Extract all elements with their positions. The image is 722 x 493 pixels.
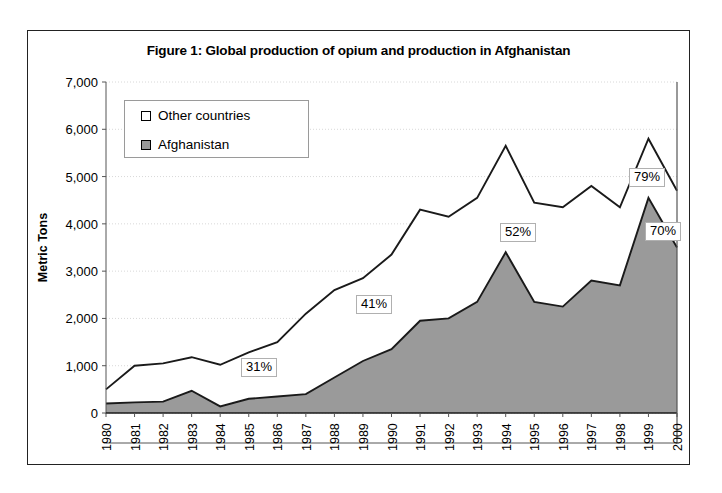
x-tick-label: 1999 (642, 423, 656, 451)
x-tick-label: 1998 (614, 423, 628, 451)
x-tick-label: 1989 (357, 423, 371, 451)
annotation-70-percent: 70% (645, 222, 681, 241)
x-tick-label: 1997 (585, 423, 599, 451)
y-axis-title: Metric Tons (36, 213, 50, 282)
x-tick-label: 1988 (328, 423, 342, 451)
y-axis-title: Metric Tons (36, 213, 50, 282)
x-tick-labels: 1980198119821983198419851986198719881989… (100, 423, 685, 451)
x-tick-label: 1987 (300, 423, 314, 451)
x-tick-label: 1994 (500, 423, 514, 451)
y-tick-label: 1,000 (65, 359, 98, 374)
y-tick-label: 5,000 (65, 170, 98, 185)
chart-svg: 01,0002,0003,0004,0005,0006,0007,000 198… (0, 0, 722, 493)
x-tick-label: 1990 (386, 423, 400, 451)
annotation-41-percent: 41% (356, 295, 392, 314)
annotation-52-percent: 52% (500, 223, 536, 242)
y-tick-labels: 01,0002,0003,0004,0005,0006,0007,000 (65, 75, 98, 421)
annotation-79-percent: 79% (629, 168, 665, 187)
annotation-31-percent: 31% (241, 358, 277, 377)
legend-label-other-countries: Other countries (158, 109, 250, 122)
y-tick-label: 3,000 (65, 264, 98, 279)
y-tick-label: 6,000 (65, 122, 98, 137)
x-tick-label: 1983 (186, 423, 200, 451)
x-tick-label: 1993 (471, 423, 485, 451)
x-tick-label: 1982 (157, 423, 171, 451)
legend-swatch-other-countries (141, 111, 151, 121)
x-tick-label: 1984 (214, 423, 228, 451)
legend-item-afghanistan: Afghanistan (125, 130, 308, 159)
x-tick-label: 1995 (528, 423, 542, 451)
x-tick-label: 1985 (243, 423, 257, 451)
legend-label-afghanistan: Afghanistan (158, 138, 229, 151)
y-tick-label: 4,000 (65, 217, 98, 232)
x-tick-label: 1992 (443, 423, 457, 451)
x-tick-label: 1980 (100, 423, 114, 451)
y-tick-label: 7,000 (65, 75, 98, 90)
x-tick-label: 1981 (129, 423, 143, 451)
y-tick-label: 2,000 (65, 311, 98, 326)
area-series-group (106, 139, 677, 413)
x-tick-label: 1991 (414, 423, 428, 451)
y-tick-label: 0 (91, 406, 98, 421)
x-tick-label: 2000 (671, 423, 685, 451)
x-tick-label: 1986 (271, 423, 285, 451)
x-tick-label: 1996 (557, 423, 571, 451)
chart-plot-area: 01,0002,0003,0004,0005,0006,0007,000 198… (0, 0, 722, 493)
legend-item-other-countries: Other countries (125, 101, 308, 130)
chart-legend: Other countries Afghanistan (124, 100, 309, 158)
legend-swatch-afghanistan (141, 140, 151, 150)
